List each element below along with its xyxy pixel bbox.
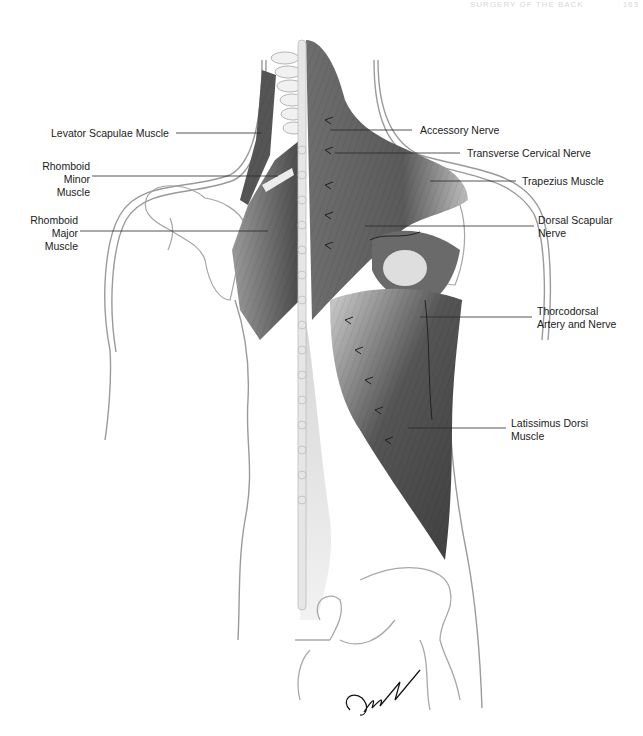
label-line: Transverse Cervical Nerve	[467, 147, 591, 160]
label-line: Nerve	[538, 227, 613, 240]
label-rhomboid-minor-muscle: Rhomboid Minor Muscle	[36, 160, 90, 199]
label-line: Muscle	[24, 240, 78, 253]
label-line: Latissimus Dorsi	[511, 417, 588, 430]
label-line: Levator Scapulae Muscle	[51, 127, 169, 140]
label-line: Artery and Nerve	[537, 318, 616, 331]
label-trapezius-muscle: Trapezius Muscle	[522, 175, 604, 188]
label-latissimus-dorsi-muscle: Latissimus Dorsi Muscle	[511, 417, 588, 443]
label-rhomboid-major-muscle: Rhomboid Major Muscle	[24, 214, 78, 253]
spine	[298, 40, 306, 610]
artist-signature	[346, 670, 420, 715]
label-accessory-nerve: Accessory Nerve	[420, 124, 499, 137]
label-line: Minor	[36, 173, 90, 186]
label-line: Muscle	[36, 186, 90, 199]
label-line: Dorsal Scapular	[538, 214, 613, 227]
label-line: Thorcodorsal	[537, 305, 616, 318]
label-line: Muscle	[511, 430, 588, 443]
label-line: Trapezius Muscle	[522, 175, 604, 188]
label-thorcodorsal-artery-and-nerve: Thorcodorsal Artery and Nerve	[537, 305, 616, 331]
label-line: Rhomboid	[24, 214, 78, 227]
label-line: Rhomboid	[36, 160, 90, 173]
label-line: Major	[24, 227, 78, 240]
label-line: Accessory Nerve	[420, 124, 499, 137]
label-levator-scapulae-muscle: Levator Scapulae Muscle	[51, 127, 169, 140]
label-transverse-cervical-nerve: Transverse Cervical Nerve	[467, 147, 591, 160]
label-dorsal-scapular-nerve: Dorsal Scapular Nerve	[538, 214, 613, 240]
anatomical-illustration	[0, 0, 643, 736]
